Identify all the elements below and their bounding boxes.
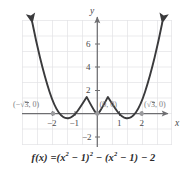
x-tick-label-neg1: −1 (70, 119, 80, 128)
equation-body-mid-2: − (x (93, 152, 114, 163)
equation-body-mid-1: − 1) (69, 152, 90, 163)
axes (22, 17, 168, 147)
x-tick-label-1: 1 (117, 119, 122, 128)
y-tick-label-2: 2 (86, 86, 91, 95)
annotation-left-root: (−√3, 0) (13, 101, 39, 109)
annotation-origin: (0, 0) (100, 101, 117, 109)
point-origin (95, 111, 99, 115)
left-root-prefix: (− (13, 100, 20, 109)
annotation-right-root: (√3, 0) (144, 101, 166, 109)
y-tick-label-6: 6 (86, 40, 91, 49)
equation-body-pre: (x (57, 152, 66, 163)
left-root-suffix: , 0) (29, 100, 40, 109)
function-graph-figure: y x 6 4 2 −2 −2 −1 1 2 (−√3, 0) (0, 0) (… (0, 0, 187, 178)
equation-body-mid-3: − 1) − 2 (117, 152, 155, 163)
sqrt-symbol-right-icon: √3 (147, 101, 155, 109)
y-tick-label-neg2: −2 (82, 133, 92, 142)
x-axis-label: x (175, 119, 179, 129)
y-tick-label-4: 4 (86, 63, 91, 72)
sqrt-symbol-left-icon: √3 (20, 101, 28, 109)
x-tick-label-neg2: −2 (47, 119, 57, 128)
x-tick-label-2: 2 (140, 119, 145, 128)
y-axis-label: y (90, 7, 94, 17)
point-right-root (139, 111, 143, 115)
point-left-root (51, 111, 55, 115)
function-equation-caption: f(x) =(x2 − 1)2 − (x2 − 1) − 2 (0, 150, 187, 163)
right-root-suffix: , 0) (155, 100, 166, 109)
equation-fx: f(x) (32, 152, 48, 163)
